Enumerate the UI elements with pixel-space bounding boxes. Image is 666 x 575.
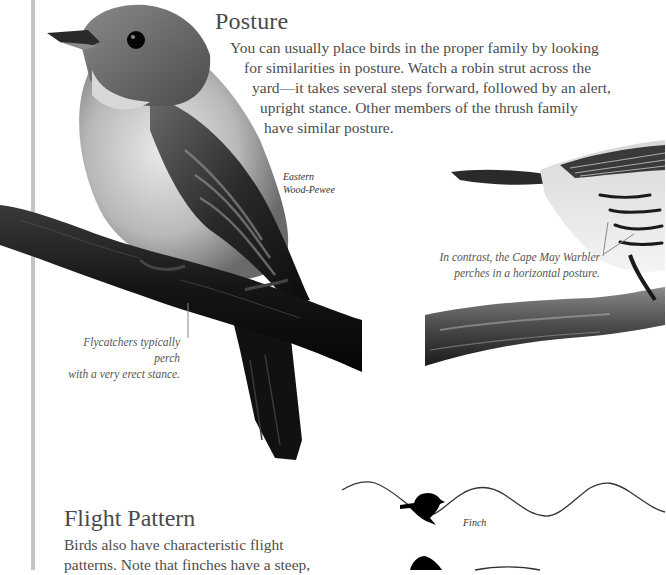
second-bird-silhouette-icon — [410, 556, 442, 570]
finch-label: Finch — [463, 515, 486, 531]
finch-silhouette-icon — [400, 493, 445, 525]
